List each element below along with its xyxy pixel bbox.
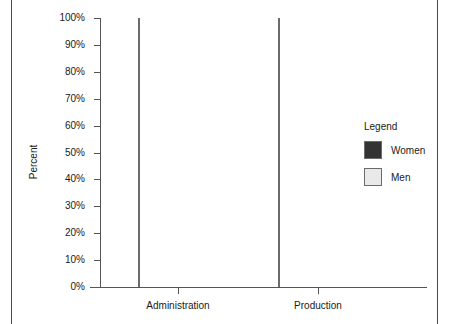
y-axis-tick: 100% <box>94 18 100 19</box>
y-axis-tick: 60% <box>94 126 100 127</box>
page-border-left <box>11 0 12 324</box>
legend-title: Legend <box>364 120 425 133</box>
y-axis-tick-label: 80% <box>65 65 85 78</box>
y-axis-tick: 20% <box>94 233 100 234</box>
x-axis-tick <box>178 288 179 294</box>
legend-swatch-men <box>364 168 382 186</box>
chart-legend: Legend Women Men <box>364 120 425 195</box>
y-axis-tick: 50% <box>94 153 100 154</box>
page-border-right <box>437 0 438 324</box>
y-axis-line <box>100 18 101 287</box>
y-axis-tick: 70% <box>94 99 100 100</box>
x-axis-category-label: Production <box>294 299 342 312</box>
y-axis-tick-label: 60% <box>65 119 85 132</box>
legend-label-men: Men <box>391 171 410 184</box>
x-axis-category-label: Administration <box>146 299 209 312</box>
x-axis-tick <box>318 288 319 294</box>
chart-plot-area: 0%10%20%30%40%50%60%70%80%90%100%Adminis… <box>100 18 380 287</box>
y-axis-tick-label: 70% <box>65 92 85 105</box>
legend-item-men[interactable]: Men <box>364 168 425 186</box>
y-axis-tick: 80% <box>94 72 100 73</box>
y-axis-tick-label: 20% <box>65 226 85 239</box>
y-axis-tick-label: 10% <box>65 253 85 266</box>
bar-production[interactable] <box>278 18 280 287</box>
legend-item-women[interactable]: Women <box>364 141 425 159</box>
bar-administration[interactable] <box>138 18 140 287</box>
legend-label-women: Women <box>391 144 425 157</box>
y-axis-tick: 90% <box>94 45 100 46</box>
y-axis-title: Percent <box>27 145 40 179</box>
y-axis-tick-label: 50% <box>65 146 85 159</box>
y-axis-tick-label: 30% <box>65 199 85 212</box>
y-axis-tick: 0% <box>94 287 100 288</box>
y-axis-tick-label: 0% <box>71 280 85 293</box>
x-axis-line <box>90 287 427 288</box>
y-axis-tick: 40% <box>94 179 100 180</box>
legend-swatch-women <box>364 141 382 159</box>
y-axis-tick: 30% <box>94 206 100 207</box>
y-axis-tick-label: 100% <box>59 11 85 24</box>
y-axis-tick-label: 40% <box>65 172 85 185</box>
y-axis-tick: 10% <box>94 260 100 261</box>
y-axis-tick-label: 90% <box>65 38 85 51</box>
